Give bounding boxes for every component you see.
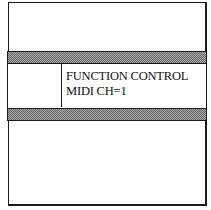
display-left-cell bbox=[8, 64, 62, 107]
lcd-display-band: FUNCTION CONTROL MIDI CH=1 bbox=[7, 51, 207, 121]
display-line-midi-channel: MIDI CH=1 bbox=[66, 84, 204, 99]
lcd-display-text: FUNCTION CONTROL MIDI CH=1 bbox=[66, 69, 204, 99]
bottom-hatched-stripe bbox=[8, 108, 206, 120]
display-line-function: FUNCTION CONTROL bbox=[66, 69, 204, 84]
top-hatched-stripe bbox=[8, 52, 206, 64]
